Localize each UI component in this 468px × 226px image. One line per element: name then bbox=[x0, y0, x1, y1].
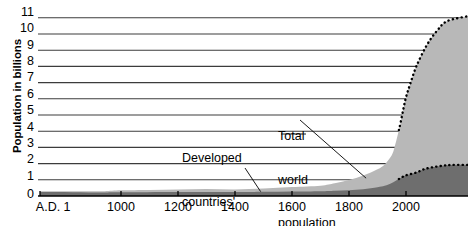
population-growth-chart: Population in billions 11 10 9 8 7 6 5 4… bbox=[0, 0, 468, 226]
annotation-developed-line1: Developed bbox=[182, 151, 246, 166]
x-tick-label-1800: 1800 bbox=[335, 200, 363, 214]
x-tick-label-1600: 1600 bbox=[278, 200, 306, 214]
plot-area bbox=[38, 8, 468, 200]
y-tick-label-3: 3 bbox=[16, 137, 34, 150]
x-tick-label-ad1: A.D. 1 bbox=[36, 200, 71, 214]
annotation-total-line2: world bbox=[278, 173, 336, 188]
series-area-total-world-population bbox=[40, 16, 468, 196]
y-tick-label-8: 8 bbox=[16, 55, 34, 68]
x-tick-label-1200: 1200 bbox=[164, 200, 192, 214]
y-tick-label-5: 5 bbox=[16, 104, 34, 117]
y-tick-label-7: 7 bbox=[16, 71, 34, 84]
y-tick-label-4: 4 bbox=[16, 121, 34, 134]
x-axis-tick-labels: A.D. 1 1000 1200 1400 1600 1800 2000 bbox=[0, 200, 468, 222]
y-tick-label-11: 11 bbox=[16, 6, 34, 19]
x-tick-label-1400: 1400 bbox=[221, 200, 249, 214]
x-tick-label-1000: 1000 bbox=[107, 200, 135, 214]
y-tick-label-6: 6 bbox=[16, 88, 34, 101]
x-tick-label-2000: 2000 bbox=[392, 200, 420, 214]
y-tick-label-9: 9 bbox=[16, 39, 34, 52]
chart-canvas bbox=[38, 8, 468, 200]
y-tick-label-10: 10 bbox=[16, 22, 34, 35]
y-tick-label-0: 0 bbox=[16, 188, 34, 201]
y-tick-label-2: 2 bbox=[16, 153, 34, 166]
annotation-total-line1: Total bbox=[278, 129, 336, 144]
y-tick-label-1: 1 bbox=[16, 170, 34, 183]
y-axis-tick-labels: 11 10 9 8 7 6 5 4 3 2 1 0 bbox=[12, 0, 34, 226]
